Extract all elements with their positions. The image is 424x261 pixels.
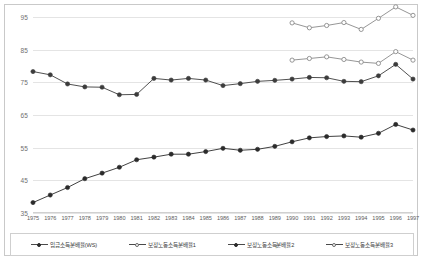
x-axis-tick-label: 1985 xyxy=(200,215,212,221)
x-axis-tick-label: 1986 xyxy=(217,215,229,221)
x-axis-tick-label: 1987 xyxy=(234,215,246,221)
x-axis-tick-label: 1991 xyxy=(303,215,315,221)
data-point xyxy=(307,56,311,60)
data-point xyxy=(325,134,329,138)
data-point xyxy=(273,78,277,82)
x-axis-tick-label: 1992 xyxy=(321,215,333,221)
data-point xyxy=(394,5,398,9)
y-axis-tick-label: 45 xyxy=(21,177,28,184)
data-point xyxy=(376,61,380,65)
data-point xyxy=(325,23,329,27)
data-point xyxy=(65,185,69,189)
series-2 xyxy=(290,5,415,32)
y-axis-tick-label: 65 xyxy=(21,112,28,119)
chart-legend: 임금소득분배율(WS)보정노동소득분배율1보정노동소득분배율2보정노동소득분배율… xyxy=(10,233,414,256)
data-point xyxy=(169,78,173,82)
data-point xyxy=(135,92,139,96)
data-point xyxy=(359,27,363,31)
data-point xyxy=(359,60,363,64)
data-point xyxy=(204,78,208,82)
data-point xyxy=(255,147,259,151)
data-point xyxy=(359,80,363,84)
series-3 xyxy=(31,62,415,97)
series-line xyxy=(33,124,413,202)
legend-item-2[interactable]: 보정노동소득분배율1 xyxy=(129,241,196,249)
x-axis-tick-label: 1980 xyxy=(113,215,125,221)
x-axis-tick-label: 1983 xyxy=(165,215,177,221)
x-axis-tick-label: 1975 xyxy=(27,215,39,221)
legend-marker-icon xyxy=(129,241,146,248)
series-layer xyxy=(33,17,413,213)
data-point xyxy=(186,76,190,80)
data-point xyxy=(290,58,294,62)
data-point xyxy=(31,69,35,73)
data-point xyxy=(325,55,329,59)
legend-label: 보정노동소득분배율2 xyxy=(247,241,295,249)
data-point xyxy=(325,76,329,80)
data-point xyxy=(411,13,415,17)
y-axis-tick-label: 55 xyxy=(21,144,28,151)
x-axis-tick-label: 1978 xyxy=(79,215,91,221)
data-point xyxy=(152,76,156,80)
data-point xyxy=(186,152,190,156)
legend-item-3[interactable]: 보정노동소득분배율2 xyxy=(228,241,295,249)
chart-frame: 35455565758595 1975197619771978197919801… xyxy=(4,4,418,256)
x-axis-tick-label: 1993 xyxy=(338,215,350,221)
data-point xyxy=(307,75,311,79)
data-point xyxy=(238,82,242,86)
data-point xyxy=(290,21,294,25)
data-point xyxy=(204,149,208,153)
plot-inner: 35455565758595 xyxy=(33,17,413,213)
data-point xyxy=(359,135,363,139)
data-point xyxy=(307,26,311,30)
data-point xyxy=(169,152,173,156)
data-point xyxy=(342,134,346,138)
data-point xyxy=(83,85,87,89)
x-axis-tick-label: 1989 xyxy=(269,215,281,221)
x-axis-tick-label: 1977 xyxy=(61,215,73,221)
data-point xyxy=(238,148,242,152)
data-point xyxy=(376,16,380,20)
x-axis-tick-label: 1994 xyxy=(355,215,367,221)
x-axis-tick-label: 1990 xyxy=(286,215,298,221)
y-axis-tick-label: 85 xyxy=(21,46,28,53)
legend-marker-icon xyxy=(326,241,343,248)
data-point xyxy=(48,73,52,77)
x-axis-tick-label: 1996 xyxy=(390,215,402,221)
data-point xyxy=(135,158,139,162)
data-point xyxy=(376,74,380,78)
data-point xyxy=(290,140,294,144)
data-point xyxy=(100,171,104,175)
data-point xyxy=(394,50,398,54)
data-point xyxy=(221,84,225,88)
legend-marker-icon xyxy=(228,241,245,248)
data-point xyxy=(117,93,121,97)
data-point xyxy=(307,136,311,140)
y-axis-tick-label: 75 xyxy=(21,79,28,86)
x-axis-tick-label: 1982 xyxy=(148,215,160,221)
series-line xyxy=(33,64,413,94)
data-point xyxy=(117,165,121,169)
x-axis-tick-label: 1997 xyxy=(407,215,419,221)
data-point xyxy=(48,193,52,197)
data-point xyxy=(65,82,69,86)
data-point xyxy=(394,62,398,66)
data-point xyxy=(221,146,225,150)
data-point xyxy=(100,85,104,89)
legend-item-1[interactable]: 임금소득분배율(WS) xyxy=(31,241,97,249)
legend-item-4[interactable]: 보정노동소득분배율3 xyxy=(326,241,393,249)
legend-label: 보정노동소득분배율1 xyxy=(148,241,196,249)
data-point xyxy=(411,58,415,62)
data-point xyxy=(411,77,415,81)
gridline xyxy=(33,213,413,214)
data-point xyxy=(83,177,87,181)
x-axis-line xyxy=(33,212,413,213)
legend-label: 임금소득분배율(WS) xyxy=(50,241,97,249)
x-axis-tick-label: 1984 xyxy=(182,215,194,221)
data-point xyxy=(376,131,380,135)
x-axis-tick-labels: 1975197619771978197919801981198219831984… xyxy=(33,215,413,227)
data-point xyxy=(342,79,346,83)
data-point xyxy=(394,122,398,126)
x-axis-tick-label: 1981 xyxy=(131,215,143,221)
legend-label: 보정노동소득분배율3 xyxy=(345,241,393,249)
